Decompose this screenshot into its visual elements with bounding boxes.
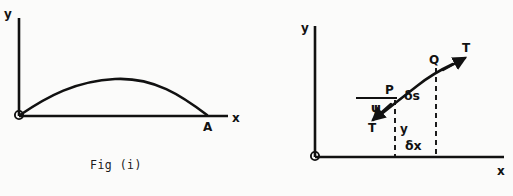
right-y-axis-label: y — [301, 21, 309, 35]
figure-page: y x A Fig (i) y x P Q — [0, 0, 513, 196]
right-arc-length-label-delta-s: δs — [404, 88, 420, 103]
right-tension-label-upper-t: T — [462, 41, 471, 55]
left-trajectory-curve — [20, 79, 207, 115]
right-horizontal-label-delta-x: δx — [405, 138, 422, 153]
tangent-arrow-upper-t — [443, 58, 465, 70]
right-point-label-p: P — [385, 83, 394, 97]
right-point-label-q: Q — [429, 53, 439, 67]
right-tension-label-lower-t: T — [368, 121, 377, 135]
left-figure-caption: Fig (i) — [90, 158, 142, 172]
right-height-label-y: y — [400, 122, 408, 136]
right-angle-label-psi: ψ — [371, 100, 381, 115]
left-y-axis-label: y — [4, 7, 12, 21]
right-figure-canvas: y x P Q T T ψ δs δx y — [257, 0, 513, 196]
left-point-label-a: A — [203, 120, 213, 134]
left-x-axis-label: x — [232, 111, 240, 125]
right-x-axis-label: x — [497, 164, 505, 178]
